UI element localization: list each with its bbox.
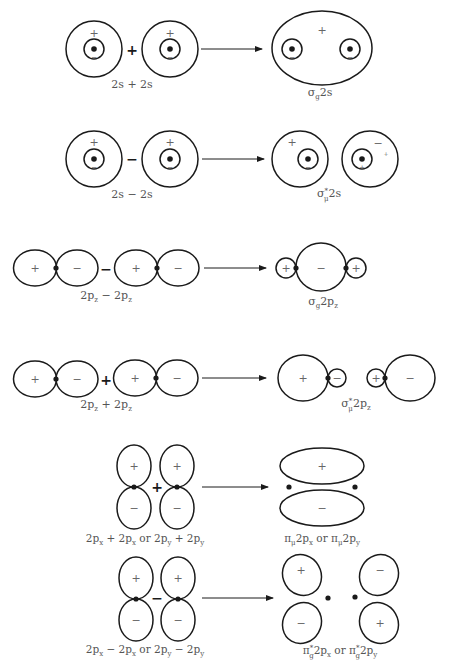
orbital-sigma-g-2s: + − − bbox=[272, 11, 372, 85]
operator-plus: + bbox=[126, 42, 138, 58]
svg-text:−: − bbox=[172, 502, 181, 515]
orbital-sigma-star-u-2s: + − − + + bbox=[272, 131, 398, 187]
label-sigma-star-u-2pz: σ*μ2pz bbox=[341, 397, 371, 413]
row-2s-minus: + − − + − + − − + + 2s − 2s σ*μ2s bbox=[66, 131, 398, 203]
svg-text:−: − bbox=[347, 53, 354, 62]
svg-text:+: + bbox=[89, 27, 98, 40]
svg-text:+: + bbox=[317, 460, 326, 473]
orbital-2pz-right: + − bbox=[115, 250, 200, 286]
operator-minus: − bbox=[151, 590, 163, 606]
operator-plus: + bbox=[151, 479, 163, 495]
orbital-2s-left: + − bbox=[66, 131, 122, 187]
svg-text:−: − bbox=[91, 163, 98, 172]
orbital-2pz-right: + − bbox=[114, 360, 199, 396]
svg-text:+: + bbox=[131, 262, 140, 275]
orbital-pi-star-g-2px: + − − + bbox=[275, 547, 406, 650]
label-2pz-minus-2pz: 2pz − 2pz bbox=[80, 289, 132, 304]
svg-text:+: + bbox=[375, 617, 384, 630]
label-2px-minus-2px: 2px − 2px or 2py − 2py bbox=[86, 643, 204, 658]
mo-diagram: + − + + − + − − 2s + 2s σg2s bbox=[0, 0, 454, 669]
svg-text:+: + bbox=[30, 262, 39, 275]
svg-text:−: − bbox=[305, 163, 312, 172]
svg-text:+: + bbox=[359, 163, 366, 172]
svg-text:−: − bbox=[296, 617, 305, 630]
svg-text:−: − bbox=[72, 262, 81, 275]
row-2pz-minus: + − − + − + − + 2pz − 2pz σg2pz bbox=[14, 243, 367, 310]
orbital-sigma-star-u-2pz: + − + − bbox=[278, 355, 435, 401]
svg-text:+: + bbox=[296, 564, 305, 577]
operator-minus: − bbox=[126, 151, 138, 167]
svg-text:+: + bbox=[371, 372, 380, 385]
svg-text:+: + bbox=[173, 572, 182, 585]
svg-text:+: + bbox=[281, 262, 290, 275]
label-2px-plus-2px: 2px + 2px or 2py + 2py bbox=[86, 532, 204, 547]
svg-text:−: − bbox=[172, 372, 181, 385]
row-2px-minus: + − − + − + − − + 2px − 2px or 2py − 2py… bbox=[86, 547, 406, 660]
svg-text:−: − bbox=[373, 137, 382, 150]
label-sigma-g-2pz: σg2pz bbox=[308, 295, 338, 310]
svg-text:−: − bbox=[72, 373, 81, 386]
svg-text:−: − bbox=[332, 372, 341, 385]
operator-minus: − bbox=[100, 261, 112, 277]
svg-text:−: − bbox=[316, 262, 325, 275]
svg-text:−: − bbox=[317, 502, 326, 515]
svg-text:−: − bbox=[91, 53, 98, 62]
svg-text:−: − bbox=[405, 372, 414, 385]
row-2px-plus: + − + + − + − 2px + 2px or 2py + 2py πμ2… bbox=[86, 445, 364, 547]
orbital-2px-left: + − bbox=[119, 557, 153, 641]
label-pi-star-g-2px: π*g2px or π*g2py bbox=[303, 644, 378, 660]
svg-text:−: − bbox=[289, 53, 296, 62]
label-sigma-g-2s: σg2s bbox=[308, 86, 333, 101]
row-2s-plus: + − + + − + − − 2s + 2s σg2s bbox=[66, 11, 372, 101]
svg-text:+: + bbox=[383, 150, 388, 157]
svg-text:+: + bbox=[30, 373, 39, 386]
label-2s-minus-2s: 2s − 2s bbox=[111, 188, 153, 201]
orbital-2px-right: + − bbox=[160, 445, 194, 529]
orbital-2px-left: + − bbox=[117, 445, 151, 529]
svg-text:+: + bbox=[130, 372, 139, 385]
svg-text:−: − bbox=[173, 614, 182, 627]
label-sigma-star-u-2s: σ*μ2s bbox=[317, 187, 342, 203]
orbital-2px-right: + − bbox=[161, 557, 195, 641]
orbital-sigma-g-2pz: + − + bbox=[276, 243, 366, 291]
svg-text:−: − bbox=[131, 614, 140, 627]
svg-text:+: + bbox=[89, 136, 98, 149]
svg-text:−: − bbox=[173, 262, 182, 275]
row-2pz-plus: + − + + − + − + − 2pz + 2pz σ*μ2pz bbox=[14, 355, 436, 413]
orbital-2pz-left: + − bbox=[14, 250, 99, 286]
svg-text:+: + bbox=[351, 262, 360, 275]
svg-text:+: + bbox=[165, 136, 174, 149]
svg-text:−: − bbox=[129, 502, 138, 515]
svg-text:+: + bbox=[172, 460, 181, 473]
orbital-pi-u-2px: + − bbox=[280, 448, 364, 526]
svg-text:+: + bbox=[317, 24, 326, 37]
svg-text:+: + bbox=[287, 136, 296, 149]
operator-plus: + bbox=[100, 372, 112, 388]
orbital-2s-left: + − bbox=[66, 21, 122, 77]
orbital-2s-right: + − bbox=[142, 21, 198, 77]
orbital-2pz-left: + − bbox=[14, 361, 99, 397]
label-pi-u-2px: πμ2px or πμ2py bbox=[284, 532, 360, 547]
svg-text:−: − bbox=[167, 163, 174, 172]
svg-text:+: + bbox=[298, 372, 307, 385]
svg-text:+: + bbox=[165, 27, 174, 40]
label-2pz-plus-2pz: 2pz + 2pz bbox=[80, 398, 132, 413]
svg-text:−: − bbox=[167, 53, 174, 62]
svg-text:+: + bbox=[129, 460, 138, 473]
orbital-2s-right: + − bbox=[142, 131, 198, 187]
svg-text:−: − bbox=[375, 564, 384, 577]
svg-text:+: + bbox=[131, 572, 140, 585]
label-2s-plus-2s: 2s + 2s bbox=[111, 78, 153, 91]
